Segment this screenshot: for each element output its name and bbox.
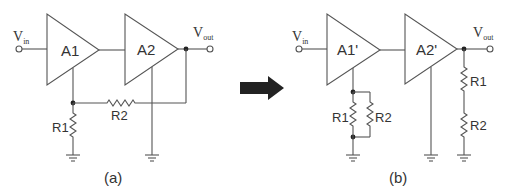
panel-a: Vin A1 A2 Vout R2 R1: [13, 14, 214, 186]
caption-b: (b): [389, 169, 407, 186]
vout-terminal-b: [487, 46, 493, 52]
vin-label-a: Vin: [13, 29, 29, 46]
ground-icon: [145, 155, 159, 161]
amplifier-a1-prime-label: A1': [337, 41, 358, 58]
resistor-r1-label-a: R1: [52, 120, 69, 135]
amplifier-a2-prime-label: A2': [416, 41, 437, 58]
resistor-r1-parallel-label-b: R1: [332, 110, 349, 125]
resistor-r2-label-a: R2: [111, 108, 128, 123]
resistor-r2-parallel-b: [367, 92, 373, 137]
resistor-r1-series-label-b: R1: [470, 74, 487, 89]
transform-arrow-icon: [240, 76, 284, 100]
resistor-r2-series-label-b: R2: [470, 118, 487, 133]
vout-label-b: Vout: [473, 25, 494, 42]
circuit-diagram: Vin A1 A2 Vout R2 R1: [0, 0, 509, 193]
ground-icon: [424, 155, 438, 161]
ground-icon: [66, 155, 80, 161]
amplifier-a1-label: A1: [61, 42, 79, 59]
ground-icon: [457, 155, 471, 161]
resistor-r1-series-b: [461, 49, 467, 112]
vout-terminal-a: [207, 46, 213, 52]
resistor-r2-parallel-label-b: R2: [375, 110, 392, 125]
resistor-r2-series-b: [461, 112, 467, 155]
ground-icon: [346, 155, 360, 161]
resistor-r2-a: [73, 100, 186, 106]
vin-terminal-b: [296, 46, 302, 52]
amplifier-a2-label: A2: [137, 41, 155, 58]
resistor-r1-parallel-b: [350, 92, 356, 137]
resistor-r1-a: [70, 103, 76, 155]
caption-a: (a): [104, 169, 122, 186]
vin-terminal-a: [16, 46, 22, 52]
vin-label-b: Vin: [292, 29, 308, 46]
vout-label-a: Vout: [193, 25, 214, 42]
panel-b: Vin A1' A2' Vout R1 R2: [292, 14, 494, 186]
